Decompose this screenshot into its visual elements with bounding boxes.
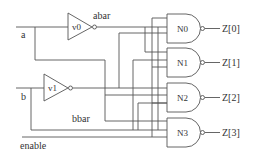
label-z1: Z[1] [222, 57, 240, 68]
wire-bbar-n0 [119, 33, 167, 88]
label-n1: N1 [177, 58, 188, 68]
label-v1: v1 [48, 83, 57, 93]
decoder-circuit: a b enable v0 abar v1 bbar N0 N1 N2 N3 Z… [0, 0, 257, 157]
wire-enable-bus [152, 18, 167, 137]
wire-abar-n1 [145, 27, 167, 52]
inverter-v1-bubble [69, 86, 73, 90]
nand-gate-n2 [167, 83, 220, 112]
nand-gate-n1 [167, 48, 220, 77]
label-z0: Z[0] [222, 23, 240, 34]
nand-gate-n0 [167, 14, 220, 43]
label-z3: Z[3] [222, 127, 240, 138]
wire-a-branch [35, 27, 167, 121]
label-bbar: bbar [72, 113, 90, 124]
label-abar: abar [93, 10, 111, 21]
label-n2: N2 [177, 93, 188, 103]
label-a: a [21, 29, 26, 40]
nand-gate-n3 [167, 118, 220, 147]
inverter-v0-bubble [93, 25, 97, 29]
label-b: b [21, 91, 26, 102]
label-enable: enable [20, 140, 47, 151]
label-v0: v0 [72, 22, 82, 32]
label-n0: N0 [177, 24, 188, 34]
label-n3: N3 [177, 128, 188, 138]
wire-b-n2 [138, 103, 167, 130]
label-z2: Z[2] [222, 92, 240, 103]
